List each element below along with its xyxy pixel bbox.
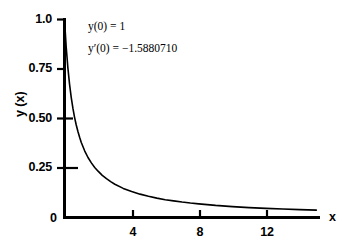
annotation-initial-value: y(0) = 1 — [88, 21, 125, 33]
x-axis-title: x — [329, 211, 336, 224]
y-axis-title: y (x) — [14, 81, 27, 127]
annotation-initial-slope: y′(0) = −1.5880710 — [88, 43, 177, 55]
x-tick-label-4: 4 — [123, 226, 143, 239]
x-tick-label-12: 12 — [255, 226, 279, 239]
y-tick-label-0.75: 0.75 — [6, 62, 52, 75]
origin-label: 0 — [50, 212, 57, 225]
y-tick-label-1.0: 1.0 — [14, 13, 52, 26]
figure-panel: 1.0 0.75 0.50 0.25 0 4 8 12 y (x) x y(0)… — [0, 0, 347, 251]
x-tick-label-8: 8 — [190, 226, 210, 239]
y-tick-label-0.25: 0.25 — [6, 161, 52, 174]
